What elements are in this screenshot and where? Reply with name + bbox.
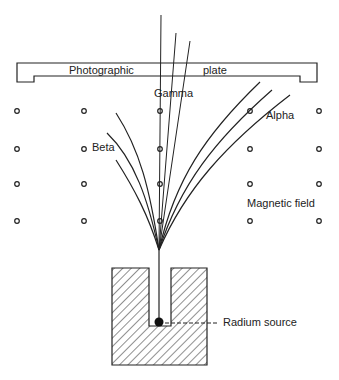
alpha-rays	[159, 82, 290, 250]
alpha-label: Alpha	[266, 110, 294, 121]
gamma-rays	[159, 15, 190, 250]
radium-source-label: Radium source	[223, 317, 297, 328]
radiation-diagram: Photographic plate Gamma Alpha Beta Magn…	[0, 0, 339, 380]
plate-label-left: Photographic	[69, 65, 134, 76]
beta-label: Beta	[92, 142, 115, 153]
radium-source	[155, 318, 164, 327]
plate-label-right: plate	[203, 65, 227, 76]
magnetic-field-label: Magnetic field	[247, 198, 315, 209]
beta-rays	[107, 113, 159, 250]
photographic-plate	[17, 63, 317, 82]
gamma-label: Gamma	[154, 88, 193, 99]
